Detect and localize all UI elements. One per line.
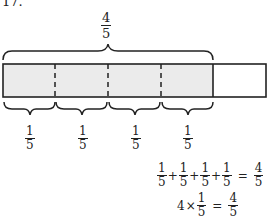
plus-sign: +	[189, 169, 199, 183]
problem-number: 17.	[2, 0, 23, 9]
part-label: 1 5	[25, 125, 35, 152]
total-fraction-label: 4 5	[101, 10, 111, 41]
part-label: 1 5	[131, 125, 141, 152]
part-label: 1 5	[183, 125, 193, 152]
bottom-brace	[56, 102, 107, 115]
sum-term: 1 5	[222, 162, 232, 189]
product-equation: 4 × 1 5 = 4 5	[177, 192, 238, 219]
times-sign: ×	[186, 199, 196, 213]
sum-result: 4 5	[254, 162, 264, 189]
plus-sign: +	[211, 169, 221, 183]
bottom-brace	[109, 102, 160, 115]
bottom-brace	[162, 102, 213, 115]
product-term: 1 5	[197, 192, 207, 219]
product-result: 4 5	[228, 192, 238, 219]
part-label: 1 5	[78, 125, 88, 152]
sum-equation: 1 5 + 1 5 + 1 5 + 1 5 = 4 5	[157, 162, 263, 189]
equals-sign: =	[238, 169, 248, 183]
top-brace	[3, 44, 213, 60]
sum-term: 1 5	[179, 162, 189, 189]
equals-sign: =	[212, 199, 222, 213]
sum-term: 1 5	[157, 162, 167, 189]
multiplier: 4	[177, 199, 185, 213]
bottom-brace	[4, 102, 55, 115]
plus-sign: +	[168, 169, 178, 183]
sum-term: 1 5	[200, 162, 210, 189]
